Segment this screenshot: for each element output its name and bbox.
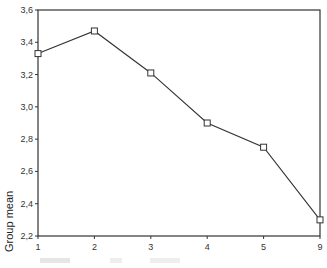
- y-axis-title: Group mean: [3, 191, 15, 252]
- x-tick-label: 2: [92, 242, 97, 252]
- data-series: [35, 28, 323, 223]
- y-tick-label: 3,0: [20, 102, 33, 112]
- x-tick-label: 3: [148, 242, 153, 252]
- x-tick-label: 4: [205, 242, 210, 252]
- x-axis-title-faint: [40, 258, 70, 263]
- x-tick-label: 9: [317, 242, 322, 252]
- square-marker-icon: [148, 70, 154, 76]
- x-tick-label: 1: [35, 242, 40, 252]
- x-tick-label: 5: [261, 242, 266, 252]
- square-marker-icon: [204, 120, 210, 126]
- square-marker-icon: [317, 217, 323, 223]
- y-tick-label: 3,4: [20, 37, 33, 47]
- square-marker-icon: [91, 28, 97, 34]
- y-tick-label: 2,8: [20, 134, 33, 144]
- series-line: [38, 31, 320, 220]
- line-chart: 2,22,42,62,83,03,23,43,6 123459 Group me…: [0, 0, 327, 268]
- y-tick-label: 3,2: [20, 70, 33, 80]
- y-tick-label: 3,6: [20, 5, 33, 15]
- x-axis-ticks: 123459: [35, 236, 322, 252]
- square-marker-icon: [35, 51, 41, 57]
- x-axis-title-faint: [110, 258, 122, 263]
- y-tick-label: 2,6: [20, 166, 33, 176]
- y-tick-label: 2,2: [20, 231, 33, 241]
- plot-frame: [38, 10, 320, 236]
- x-axis-title-faint: [150, 258, 180, 263]
- y-tick-label: 2,4: [20, 199, 33, 209]
- y-axis-ticks: 2,22,42,62,83,03,23,43,6: [20, 5, 38, 241]
- square-marker-icon: [261, 144, 267, 150]
